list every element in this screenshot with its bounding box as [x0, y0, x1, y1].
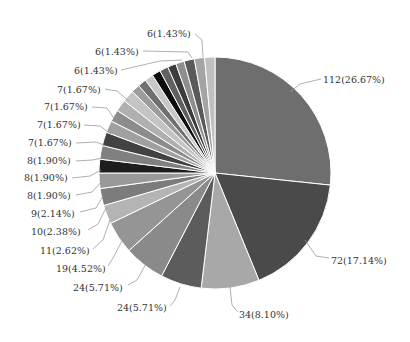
leader-line	[76, 142, 106, 146]
pie-slices	[99, 57, 331, 289]
slice-label: 112(26.67%)	[323, 74, 385, 85]
slice-label: 11(2.62%)	[40, 245, 90, 256]
slice-label: 7(1.67%)	[57, 84, 101, 95]
leader-line	[143, 51, 192, 58]
slice-label: 34(8.10%)	[239, 309, 289, 320]
slice-label: 24(5.71%)	[117, 302, 167, 313]
leader-line	[72, 170, 101, 178]
slice-label: 7(1.67%)	[44, 101, 88, 112]
leader-line	[93, 220, 110, 249]
leader-line	[108, 241, 122, 266]
leader-line	[305, 240, 329, 258]
pie-slice	[215, 57, 331, 185]
slice-label: 8(1.90%)	[27, 155, 71, 166]
leader-line	[230, 287, 238, 312]
leader-line	[76, 158, 103, 161]
slice-label: 10(2.38%)	[31, 226, 81, 237]
leader-line	[170, 287, 180, 306]
leader-line	[88, 208, 106, 230]
slice-label: 6(1.43%)	[147, 28, 191, 39]
slice-label: 19(4.52%)	[56, 263, 106, 274]
slice-label: 6(1.43%)	[74, 65, 118, 76]
pie-chart: 112(26.67%)72(17.14%)34(8.10%)24(5.71%)2…	[0, 0, 410, 342]
leader-line	[76, 182, 101, 195]
leader-line	[195, 34, 203, 57]
leader-line	[80, 196, 103, 212]
slice-label: 7(1.67%)	[37, 119, 81, 130]
slice-label: 24(5.71%)	[73, 282, 123, 293]
slice-label: 6(1.43%)	[95, 46, 139, 57]
slice-label: 9(2.14%)	[31, 208, 75, 219]
slice-label: 8(1.90%)	[27, 190, 71, 201]
slice-label: 72(17.14%)	[331, 255, 387, 266]
slice-label: 7(1.67%)	[28, 137, 72, 148]
slice-label: 8(1.90%)	[24, 172, 68, 183]
